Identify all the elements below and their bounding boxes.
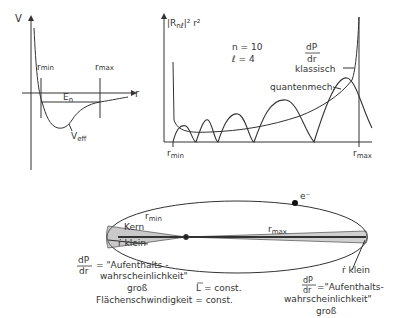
area-velocity-label: Flächenschwindigkeit = const.: [96, 295, 233, 305]
n-label: n = 10: [232, 42, 263, 52]
r-min-label: rmin: [37, 62, 54, 72]
veff-label: Veff: [71, 131, 86, 143]
prob-r-max-label: rmax: [353, 148, 372, 160]
dp-numerator: dP: [306, 42, 318, 52]
right-rdot-label: ṙ klein: [342, 265, 370, 275]
orbit-r-min-label: rmin: [145, 211, 162, 223]
dp-denominator: dr: [307, 54, 317, 64]
orbit-r-max-label: rmax: [268, 224, 287, 236]
veff-pointer: [69, 124, 72, 131]
physics-figure: V r rmin rmax En Veff |Rnℓ|² r² n = 10 ℓ…: [0, 0, 402, 318]
quantum-label: quantenmech.: [270, 82, 335, 92]
left-dp-denominator: dr: [79, 266, 89, 276]
right-probability-line3: groß: [316, 306, 337, 316]
r-axis-label: r: [135, 88, 140, 99]
right-dp-numerator: dP: [303, 276, 313, 285]
classical-label: klassisch: [295, 64, 335, 74]
nucleus-label: Kern: [124, 222, 144, 232]
prob-y-axis-label: |Rnℓ|² r²: [167, 18, 201, 30]
left-rdot-label: ṙ klein: [118, 238, 146, 248]
veff-curve: [34, 28, 128, 128]
left-probability-line2: wahrscheinlichkeit": [100, 271, 188, 281]
l-label: ℓ = 4: [231, 54, 255, 64]
right-probability-line1: ="Aufenthalts-: [317, 282, 384, 292]
nucleus-dot: [184, 235, 189, 240]
right-probability-line2: wahrscheinlichkeit": [284, 294, 372, 304]
probability-chart: [164, 16, 372, 147]
electron-dot: [292, 200, 298, 206]
angular-momentum-label: L = const.: [196, 283, 242, 293]
r-max-label: rmax: [95, 62, 114, 72]
potential-diagram: [22, 18, 134, 170]
electron-label: e⁻: [300, 191, 311, 201]
left-probability-line3: groß: [127, 283, 148, 293]
prob-r-min-label: rmin: [167, 148, 184, 160]
left-dp-numerator: dP: [78, 255, 90, 265]
classical-curve: [173, 17, 359, 142]
left-probability-line1: = "Aufenthalts -: [96, 260, 168, 270]
v-axis-label: V: [15, 13, 22, 24]
